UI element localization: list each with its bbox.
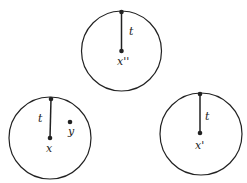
radius-label: t [38, 112, 43, 125]
circle-group-bottom-left: txy [9, 97, 91, 179]
radius-line [50, 99, 51, 138]
circle-group-bottom-right: tx' [160, 92, 242, 175]
circle-group-top: tx'' [82, 10, 162, 91]
three-circles-diagram: tx''txytx' [0, 0, 247, 183]
radius-label: t [129, 25, 134, 38]
center-point-dot [198, 131, 203, 136]
center-label: x'' [117, 55, 129, 68]
diagram-canvas: tx''txytx' [0, 0, 247, 183]
center-point-dot [119, 49, 124, 54]
top-point-dot [198, 92, 203, 97]
center-label: x [46, 142, 53, 155]
point-y-label: y [67, 125, 75, 138]
point-y-dot [68, 120, 73, 125]
center-label: x' [195, 139, 204, 152]
top-point-dot [119, 10, 124, 15]
center-point-dot [48, 136, 53, 141]
top-point-dot [49, 97, 54, 102]
radius-label: t [205, 110, 210, 123]
